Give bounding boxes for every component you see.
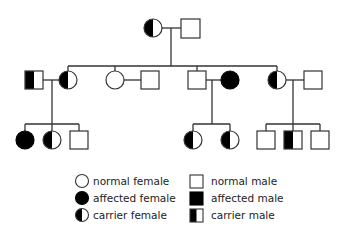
individual-II-4 [141, 71, 159, 89]
legend-item-carrier-male: carrier male [190, 209, 275, 222]
legend-item-carrier-female: carrier female [76, 209, 167, 222]
individual-III-1 [16, 131, 34, 149]
individual-II-8 [304, 71, 322, 89]
individual-III-3 [70, 131, 88, 149]
legend-label: normal female [93, 175, 169, 187]
legend-label: affected female [93, 192, 176, 204]
affected-male-icon [190, 192, 203, 205]
individual-III-5 [221, 131, 239, 149]
legend-label: normal male [211, 175, 277, 187]
individual-III-8 [311, 131, 329, 149]
individual-III-6 [257, 131, 275, 149]
individual-II-6 [221, 71, 239, 89]
individual-II-1 [25, 71, 43, 89]
affected-female-icon [76, 192, 89, 205]
individual-II-3 [106, 71, 124, 89]
legend-item-normal-male: normal male [190, 175, 277, 188]
legend: normal female affected female carrier fe… [76, 175, 284, 223]
legend-label: carrier male [211, 209, 275, 221]
individual-III-7 [284, 131, 302, 149]
individual-II-5 [188, 71, 206, 89]
individual-III-2 [43, 131, 61, 149]
legend-label: carrier female [93, 209, 167, 221]
individual-II-2 [59, 71, 77, 89]
legend-item-normal-female: normal female [76, 175, 170, 188]
pedigree-chart: normal female affected female carrier fe… [0, 0, 346, 235]
individual-III-4 [184, 131, 202, 149]
individual-I-2 [181, 19, 200, 38]
normal-male-icon [190, 175, 203, 188]
legend-item-affected-female: affected female [76, 192, 176, 205]
individual-II-7 [268, 71, 286, 89]
legend-label: affected male [211, 192, 284, 204]
individual-I-1 [144, 19, 162, 37]
normal-female-icon [76, 175, 89, 188]
legend-item-affected-male: affected male [190, 192, 284, 205]
